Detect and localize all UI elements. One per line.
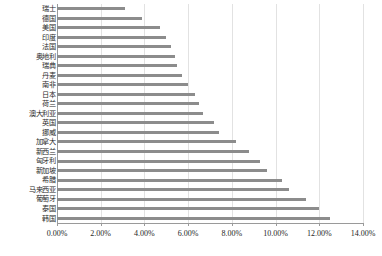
category-label: 希腊: [42, 176, 56, 183]
x-tick-label: 6.00%: [178, 229, 199, 238]
bar-row: [57, 128, 363, 138]
bar-row: [57, 90, 363, 100]
bar-row: [57, 71, 363, 81]
bar-row: [57, 99, 363, 109]
category-label: 荷兰: [42, 100, 56, 107]
x-tick-label: 10.00%: [263, 229, 288, 238]
category-label: 匈牙利: [36, 157, 56, 164]
bar-series: [57, 4, 363, 223]
bar: [57, 131, 219, 134]
bar-row: [57, 147, 363, 157]
bar: [57, 179, 282, 182]
bar: [57, 45, 171, 48]
bar-row: [57, 137, 363, 147]
category-label: 法国: [42, 43, 56, 50]
bar: [57, 64, 177, 67]
x-tick-mark: [188, 223, 189, 226]
plot-area: [57, 4, 363, 223]
bar: [57, 36, 166, 39]
bar-row: [57, 4, 363, 14]
bar-row: [57, 61, 363, 71]
bar: [57, 150, 249, 153]
category-label: 丹麦: [42, 72, 56, 79]
category-label: 韩国: [42, 215, 56, 222]
category-label-row: 新西兰: [0, 147, 57, 157]
category-label-row: 印度: [0, 33, 57, 43]
category-label-row: 德国: [0, 14, 57, 24]
category-label: 泰国: [42, 205, 56, 212]
category-label-row: 马来西亚: [0, 185, 57, 195]
gridline: [363, 4, 364, 223]
bar: [57, 7, 125, 10]
x-tick-label: 0.00%: [47, 229, 68, 238]
category-label: 加拿大: [36, 138, 56, 145]
bar: [57, 26, 160, 29]
bar: [57, 112, 203, 115]
bar: [57, 188, 289, 191]
category-label-row: 希腊: [0, 175, 57, 185]
x-tick-mark: [101, 223, 102, 226]
category-label: 澳大利亚: [29, 110, 56, 117]
bar-row: [57, 204, 363, 214]
category-label: 美国: [42, 24, 56, 31]
category-label: 马来西亚: [29, 186, 56, 193]
category-label-row: 泰国: [0, 204, 57, 214]
x-axis-line: [57, 223, 363, 224]
category-label-row: 匈牙利: [0, 156, 57, 166]
bar-row: [57, 213, 363, 223]
category-label: 瑞典: [42, 62, 56, 69]
bar-row: [57, 175, 363, 185]
x-tick-mark: [57, 223, 58, 226]
category-label: 新加坡: [36, 167, 56, 174]
bar-row: [57, 52, 363, 62]
bar-chart: 瑞士德国美国印度法国奥地利瑞典丹麦南非日本荷兰澳大利亚英国挪威加拿大新西兰匈牙利…: [0, 0, 382, 256]
category-label-row: 瑞士: [0, 4, 57, 14]
category-label: 葡萄牙: [36, 195, 56, 202]
bar: [57, 217, 330, 220]
category-axis-labels: 瑞士德国美国印度法国奥地利瑞典丹麦南非日本荷兰澳大利亚英国挪威加拿大新西兰匈牙利…: [0, 4, 57, 223]
bar: [57, 17, 142, 20]
bar: [57, 83, 188, 86]
bar-row: [57, 33, 363, 43]
category-label: 奥地利: [36, 53, 56, 60]
category-label-row: 瑞典: [0, 61, 57, 71]
bar-row: [57, 194, 363, 204]
category-label-row: 南非: [0, 80, 57, 90]
category-label: 英国: [42, 119, 56, 126]
x-tick-mark: [319, 223, 320, 226]
x-tick-mark: [232, 223, 233, 226]
category-label-row: 英国: [0, 118, 57, 128]
x-tick-label: 2.00%: [90, 229, 111, 238]
category-label: 挪威: [42, 129, 56, 136]
x-tick-mark: [144, 223, 145, 226]
category-label-row: 法国: [0, 42, 57, 52]
bar-row: [57, 23, 363, 33]
category-label: 印度: [42, 34, 56, 41]
category-label: 新西兰: [36, 148, 56, 155]
category-label: 南非: [42, 81, 56, 88]
bar: [57, 74, 182, 77]
bar: [57, 207, 319, 210]
category-label-row: 荷兰: [0, 99, 57, 109]
category-label-row: 丹麦: [0, 71, 57, 81]
bar-row: [57, 185, 363, 195]
bar-row: [57, 118, 363, 128]
bar-row: [57, 80, 363, 90]
category-label-row: 挪威: [0, 128, 57, 138]
category-label-row: 澳大利亚: [0, 109, 57, 119]
category-label: 德国: [42, 15, 56, 22]
bar-row: [57, 109, 363, 119]
x-tick-label: 14.00%: [351, 229, 376, 238]
bar-row: [57, 156, 363, 166]
x-tick-label: 4.00%: [134, 229, 155, 238]
category-label: 瑞士: [42, 5, 56, 12]
bar-row: [57, 166, 363, 176]
category-label-row: 新加坡: [0, 166, 57, 176]
bar: [57, 160, 260, 163]
x-tick-mark: [276, 223, 277, 226]
bar: [57, 121, 214, 124]
bar: [57, 169, 267, 172]
bar-row: [57, 42, 363, 52]
category-label-row: 葡萄牙: [0, 194, 57, 204]
bar: [57, 198, 306, 201]
